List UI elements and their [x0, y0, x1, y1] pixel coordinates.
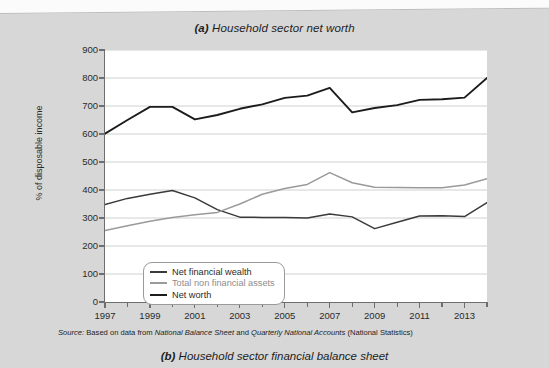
- bottom-caption-text: Household sector financial balance sheet: [179, 350, 389, 362]
- x-tick-label: 2003: [220, 310, 260, 321]
- y-tick-mark: [99, 189, 104, 190]
- x-tick-label: 2009: [355, 310, 395, 321]
- x-tick-mark: [374, 303, 375, 308]
- legend-label-net-worth: Net worth: [172, 290, 211, 300]
- gridlines: [105, 50, 487, 274]
- x-tick-mark: [284, 303, 285, 308]
- y-tick-mark: [99, 105, 104, 106]
- y-tick-mark: [99, 301, 104, 302]
- x-tick-mark-minor: [352, 303, 353, 307]
- legend-swatch-net-financial-wealth: [150, 271, 167, 273]
- x-tick-mark-minor: [441, 303, 442, 307]
- x-tick-mark: [419, 303, 420, 308]
- source-text-3: (National Statistics): [347, 328, 412, 337]
- source-text-1: Based on data from: [86, 328, 152, 337]
- x-tick-mark-minor: [127, 303, 128, 307]
- y-tick-label: 300: [58, 212, 98, 223]
- y-tick-mark: [99, 49, 104, 50]
- source-italic-2: Quarterly National Accounts: [251, 328, 345, 337]
- y-tick-label: 500: [58, 156, 98, 167]
- y-axis-title: % of disposable income: [34, 78, 44, 228]
- chart-legend: Net financial wealth Total non financial…: [143, 262, 285, 305]
- legend-label-total-non-financial-assets: Total non financial assets: [172, 278, 275, 288]
- legend-label-net-financial-wealth: Net financial wealth: [172, 267, 252, 277]
- source-note: Source: Based on data from National Bala…: [58, 328, 528, 337]
- source-text-2: and: [236, 328, 249, 337]
- series-line-net-financial-wealth: [105, 191, 487, 229]
- y-tick-mark: [99, 133, 104, 134]
- source-prefix: Source:: [58, 328, 84, 337]
- legend-swatch-net-worth: [150, 294, 167, 296]
- bottom-caption: (b) Household sector financial balance s…: [0, 350, 549, 362]
- y-tick-mark: [99, 161, 104, 162]
- y-tick-label: 900: [58, 44, 98, 55]
- series-lines: [105, 78, 487, 231]
- x-tick-mark-minor: [397, 303, 398, 307]
- x-tick-mark-minor: [486, 303, 487, 307]
- y-tick-mark: [99, 77, 104, 78]
- y-axis-line: [104, 49, 105, 303]
- y-tick-label: 700: [58, 100, 98, 111]
- x-tick-label: 2007: [310, 310, 350, 321]
- legend-item-net-worth: Net worth: [150, 289, 275, 301]
- y-tick-label: 0: [58, 296, 98, 307]
- x-tick-mark: [464, 303, 465, 308]
- x-tick-label: 1999: [130, 310, 170, 321]
- x-tick-label: 2013: [445, 310, 485, 321]
- bottom-caption-prefix: (b): [161, 350, 176, 362]
- x-tick-label: 2001: [175, 310, 215, 321]
- y-tick-label: 200: [58, 240, 98, 251]
- chart-title-prefix: (a): [194, 22, 208, 34]
- y-tick-mark: [99, 273, 104, 274]
- x-tick-mark-minor: [307, 303, 308, 307]
- y-tick-label: 400: [58, 184, 98, 195]
- figure-household-sector-net-worth: (a) Household sector net worth 010020030…: [0, 0, 549, 368]
- x-tick-mark: [329, 303, 330, 308]
- source-italic-1: National Balance Sheet: [155, 328, 234, 337]
- legend-swatch-total-non-financial-assets: [150, 282, 167, 284]
- y-tick-label: 600: [58, 128, 98, 139]
- y-tick-mark: [99, 245, 104, 246]
- x-tick-label: 1997: [85, 310, 125, 321]
- x-tick-label: 2005: [265, 310, 305, 321]
- x-tick-label: 2011: [400, 310, 440, 321]
- x-tick-mark: [104, 303, 105, 308]
- legend-item-total-non-financial-assets: Total non financial assets: [150, 278, 275, 290]
- y-tick-label: 100: [58, 268, 98, 279]
- y-tick-mark: [99, 217, 104, 218]
- y-tick-label: 800: [58, 72, 98, 83]
- legend-item-net-financial-wealth: Net financial wealth: [150, 266, 275, 278]
- chart-title-text: Household sector net worth: [212, 22, 355, 34]
- series-line-total-non-financial-assets: [105, 173, 487, 231]
